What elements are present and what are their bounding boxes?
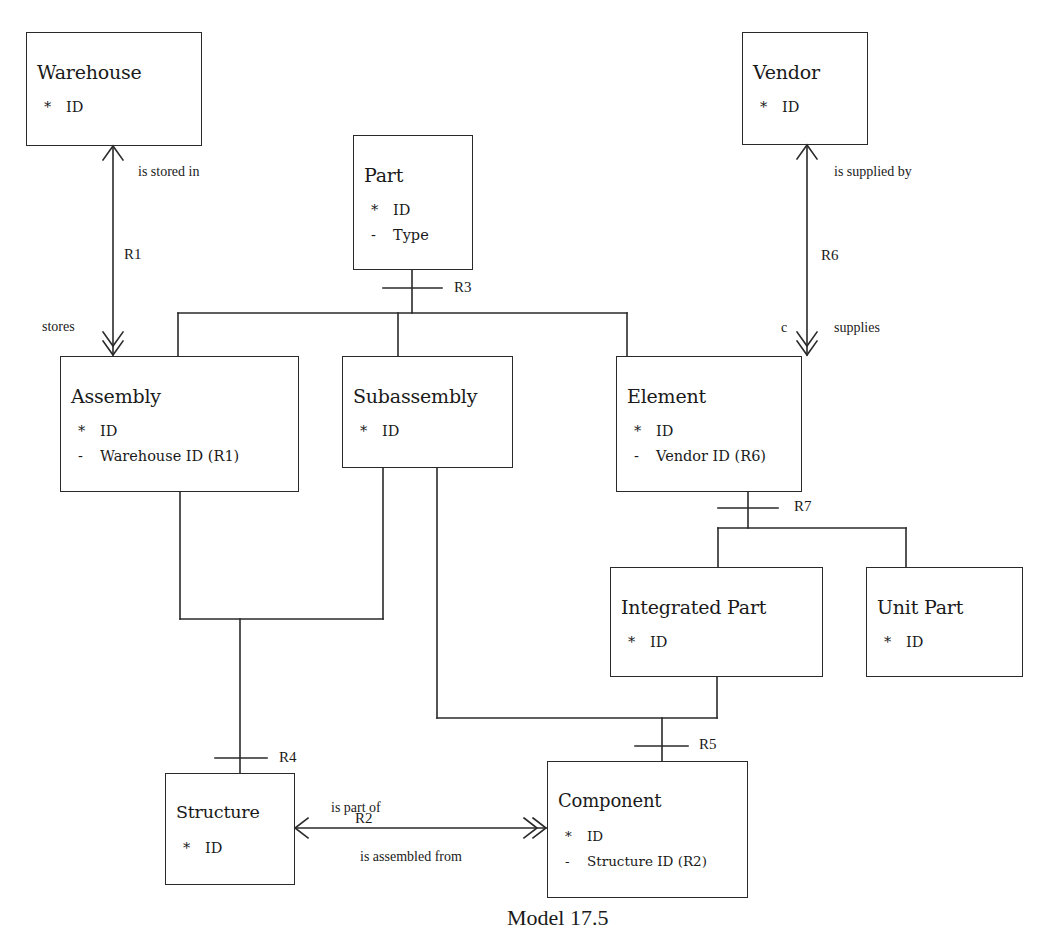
entity-vendor[interactable]: Vendor *ID xyxy=(742,32,868,145)
r2-label: R2 xyxy=(355,810,373,827)
r4-label: R4 xyxy=(279,749,297,766)
entity-integrated-part[interactable]: Integrated Part *ID xyxy=(610,567,823,677)
r7-connector xyxy=(718,492,906,567)
attribute-id: *ID xyxy=(884,630,923,655)
entity-name: Unit Part xyxy=(877,596,963,618)
attribute-text: ID xyxy=(587,828,603,844)
attribute-vendor-id: -Vendor ID (R6) xyxy=(634,444,766,469)
attribute-text: Warehouse ID (R1) xyxy=(100,448,239,464)
attribute-text: ID xyxy=(393,202,410,218)
r6-reverse-phrase: supplies xyxy=(834,317,880,338)
attribute-id: *ID xyxy=(78,419,239,444)
attribute-id: *ID xyxy=(44,95,83,120)
attribute-text: ID xyxy=(906,634,923,650)
entity-element[interactable]: Element *ID -Vendor ID (R6) xyxy=(616,356,802,492)
attribute-mark: - xyxy=(565,849,587,874)
entity-name: Component xyxy=(558,790,661,811)
attribute-mark: - xyxy=(634,444,656,469)
identifier-mark: * xyxy=(628,630,650,655)
attribute-list: *ID -Type xyxy=(371,198,429,248)
attribute-text: ID xyxy=(656,423,673,439)
attribute-text: ID xyxy=(205,840,222,856)
attribute-mark: - xyxy=(78,444,100,469)
attribute-id: *ID xyxy=(360,419,399,444)
entity-warehouse[interactable]: Warehouse *ID xyxy=(26,32,202,146)
entity-component[interactable]: Component *ID -Structure ID (R2) xyxy=(547,761,748,898)
r3-connector xyxy=(178,270,627,356)
r1-connector xyxy=(103,146,123,355)
attribute-list: *ID xyxy=(760,95,799,120)
entity-structure[interactable]: Structure *ID xyxy=(165,773,295,885)
entity-name: Integrated Part xyxy=(621,596,766,618)
entity-unit-part[interactable]: Unit Part *ID xyxy=(866,567,1023,677)
attribute-id: *ID xyxy=(628,630,667,655)
attribute-id: *ID xyxy=(183,836,222,861)
r2-connector xyxy=(295,818,546,838)
attribute-list: *ID xyxy=(360,419,399,444)
attribute-id: *ID xyxy=(565,824,707,849)
r5-label: R5 xyxy=(699,736,717,753)
attribute-text: Type xyxy=(393,227,429,243)
model-caption: Model 17.5 xyxy=(507,905,608,931)
identifier-mark: * xyxy=(78,419,100,444)
entity-name: Warehouse xyxy=(37,61,142,83)
entity-subassembly[interactable]: Subassembly *ID xyxy=(342,356,513,468)
r3-label: R3 xyxy=(454,279,472,296)
attribute-text: ID xyxy=(66,99,83,115)
r4-connector xyxy=(180,468,383,773)
entity-name: Vendor xyxy=(753,61,820,83)
information-model-diagram: Warehouse *ID Part *ID -Type Vendor *ID … xyxy=(0,0,1045,948)
identifier-mark: * xyxy=(884,630,906,655)
attribute-text: Structure ID (R2) xyxy=(587,853,707,869)
identifier-mark: * xyxy=(360,419,382,444)
r1-label: R1 xyxy=(124,246,142,263)
entity-part[interactable]: Part *ID -Type xyxy=(353,135,473,270)
r1-forward-phrase: is stored in xyxy=(138,161,199,182)
attribute-structure-id: -Structure ID (R2) xyxy=(565,849,707,874)
attribute-text: ID xyxy=(100,423,117,439)
attribute-text: ID xyxy=(382,423,399,439)
identifier-mark: * xyxy=(760,95,782,120)
entity-name: Part xyxy=(364,164,403,186)
attribute-id: *ID xyxy=(634,419,766,444)
attribute-id: *ID xyxy=(371,198,429,223)
attribute-type: -Type xyxy=(371,223,429,248)
attribute-list: *ID -Vendor ID (R6) xyxy=(634,419,766,469)
r7-label: R7 xyxy=(794,498,812,515)
r1-reverse-phrase: stores xyxy=(42,316,75,337)
entity-assembly[interactable]: Assembly *ID -Warehouse ID (R1) xyxy=(60,356,299,492)
entity-name: Element xyxy=(627,385,706,407)
r2-reverse-phrase: is assembled from xyxy=(360,846,464,867)
entity-name: Assembly xyxy=(71,385,161,407)
r6-label: R6 xyxy=(821,247,839,264)
identifier-mark: * xyxy=(371,198,393,223)
attribute-list: *ID -Warehouse ID (R1) xyxy=(78,419,239,469)
attribute-list: *ID -Structure ID (R2) xyxy=(565,824,707,874)
r6-connector xyxy=(797,145,817,355)
identifier-mark: * xyxy=(634,419,656,444)
identifier-mark: * xyxy=(565,824,587,849)
attribute-text: ID xyxy=(650,634,667,650)
attribute-text: Vendor ID (R6) xyxy=(656,448,766,464)
entity-name: Subassembly xyxy=(353,385,477,407)
identifier-mark: * xyxy=(44,95,66,120)
attribute-list: *ID xyxy=(44,95,83,120)
attribute-mark: - xyxy=(371,223,393,248)
entity-name: Structure xyxy=(176,802,260,822)
r6-forward-phrase: is supplied by xyxy=(834,161,924,182)
r6-conditionality: c xyxy=(781,317,787,338)
attribute-list: *ID xyxy=(628,630,667,655)
attribute-id: *ID xyxy=(760,95,799,120)
attribute-list: *ID xyxy=(884,630,923,655)
attribute-list: *ID xyxy=(183,836,222,861)
identifier-mark: * xyxy=(183,836,205,861)
attribute-text: ID xyxy=(782,99,799,115)
attribute-warehouse-id: -Warehouse ID (R1) xyxy=(78,444,239,469)
